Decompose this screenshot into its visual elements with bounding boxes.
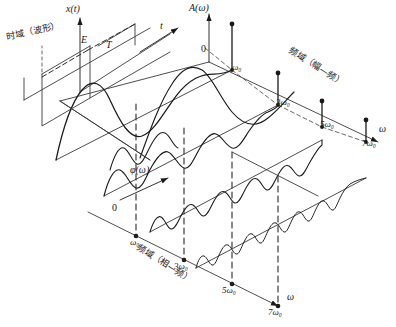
- amplitude-tick-7w0: 7ω₀: [362, 139, 376, 148]
- amplitude-tick-5w0: 5ω₀: [320, 120, 334, 129]
- amplitude-frequency-plane: [60, 14, 378, 169]
- harmonic-wave-1-copy: [140, 67, 294, 158]
- phase-origin-label: 0: [112, 203, 117, 213]
- time-domain-x-axis-label: t: [160, 21, 163, 31]
- amplitude-axis-label: A(ω): [189, 3, 209, 13]
- spectral-dots: [230, 22, 369, 144]
- fourier-3d-diagram: [0, 0, 396, 327]
- amplitude-mark-E: E: [81, 35, 87, 45]
- harmonic-baselines: [56, 70, 366, 268]
- phase-tick-5w0: 5ω₀: [222, 286, 236, 295]
- phase-axis-label: φ(ω): [130, 165, 149, 175]
- amplitude-omega-axis-label: ω: [379, 124, 386, 134]
- spectral-envelope: [205, 48, 366, 142]
- amplitude-tick-3w0: 3ω₀: [276, 98, 290, 107]
- phase-omega-axis-label: ω: [287, 292, 294, 302]
- amplitude-tick-w0: ω₀: [232, 63, 241, 72]
- amplitude-origin-label: 0: [201, 44, 206, 54]
- phase-tick-w0: ω₀: [130, 238, 139, 247]
- figure-canvas: 时域（波形） x(t) t E T A(ω) 0 频域（幅—频） ω₀ 3ω₀ …: [0, 0, 396, 327]
- phase-tick-3w0: 3ω₀: [174, 262, 188, 271]
- time-domain-y-axis-label: x(t): [66, 4, 80, 14]
- phase-tick-7w0: 7ω₀: [268, 308, 282, 317]
- projection-droplines: [136, 104, 278, 306]
- period-mark-T: T: [106, 40, 112, 50]
